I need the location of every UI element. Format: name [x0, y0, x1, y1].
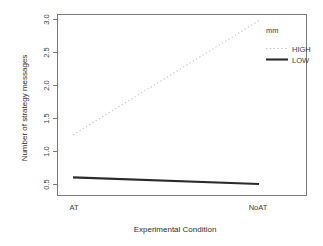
y-tick-label-5: 3.0 — [42, 14, 51, 24]
legend-label-high: HIGH — [292, 45, 311, 54]
x-tick-label-0: AT — [69, 203, 78, 212]
x-axis-tick-labels: AT NoAT — [69, 203, 267, 212]
x-tick-label-1: NoAT — [249, 203, 268, 212]
y-axis-title: Number of strategy messages — [20, 55, 29, 162]
interaction-plot: 0.5 1.0 1.5 2.0 2.5 3.0 Number of strate… — [0, 0, 323, 246]
y-tick-label-3: 2.0 — [42, 80, 51, 90]
y-axis-tick-labels: 0.5 1.0 1.5 2.0 2.5 3.0 — [42, 14, 51, 189]
y-tick-label-2: 1.5 — [42, 113, 51, 123]
y-tick-label-4: 2.5 — [42, 47, 51, 57]
x-axis-title: Experimental Condition — [134, 225, 217, 234]
legend-label-low: LOW — [292, 56, 310, 65]
y-tick-label-0: 0.5 — [42, 179, 51, 189]
chart-page: 0.5 1.0 1.5 2.0 2.5 3.0 Number of strate… — [0, 0, 323, 246]
legend-title: mm — [266, 26, 279, 35]
plot-panel-background — [57, 14, 307, 196]
y-tick-label-1: 1.0 — [42, 146, 51, 156]
y-axis-ticks — [53, 20, 57, 185]
